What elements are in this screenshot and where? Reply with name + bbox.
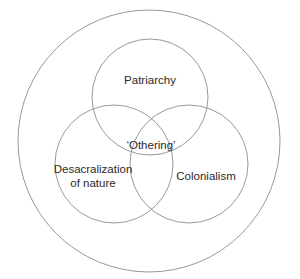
venn-diagram: Patriarchy Desacralization of nature Col… — [0, 0, 300, 279]
label-desacralization-line2: of nature — [54, 176, 133, 190]
label-desacralization: Desacralization of nature — [54, 162, 133, 190]
label-desacralization-line1: Desacralization — [54, 162, 133, 176]
label-colonialism: Colonialism — [176, 169, 235, 183]
label-othering: ‘Othering’ — [126, 138, 175, 152]
label-patriarchy: Patriarchy — [124, 73, 176, 87]
circle-colonialism — [130, 105, 248, 223]
